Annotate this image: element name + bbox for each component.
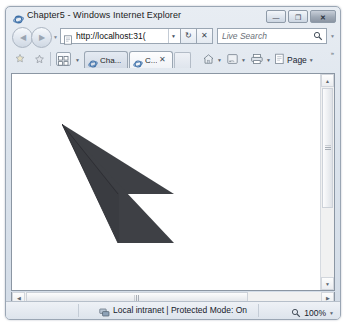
close-icon: ✕: [320, 13, 326, 20]
rss-icon: [226, 51, 239, 69]
page-canvas[interactable]: [12, 74, 320, 290]
feeds-button[interactable]: ▼: [226, 52, 246, 67]
stop-icon: ✕: [201, 32, 208, 40]
navigation-bar: ◀ ▶ ▼ http://localhost:31( ▼ ↻ ✕ Live Se…: [10, 26, 336, 48]
address-dropdown-icon[interactable]: ▼: [168, 29, 180, 43]
status-divider: [78, 304, 79, 317]
vertical-scrollbar-thumb[interactable]: [322, 88, 333, 208]
chevron-down-icon[interactable]: ▼: [329, 310, 334, 316]
browser-tab-1-active[interactable]: C... ✕: [129, 51, 173, 68]
scroll-down-button[interactable]: ▼: [321, 277, 334, 290]
toolbar-overflow-icon[interactable]: »: [331, 50, 334, 56]
stop-button[interactable]: ✕: [197, 28, 213, 44]
home-button[interactable]: ▼: [202, 52, 222, 67]
dark-chevron-polygon: [62, 124, 177, 246]
back-button[interactable]: ◀: [12, 27, 33, 48]
window-controls: — ❐ ✕: [266, 10, 336, 23]
address-input[interactable]: http://localhost:31(: [76, 31, 168, 41]
forward-button[interactable]: ▶: [31, 27, 52, 48]
close-tab-icon[interactable]: ✕: [159, 56, 166, 64]
minimize-button[interactable]: —: [266, 10, 286, 23]
window-title: Chapter5 - Windows Internet Explorer: [27, 10, 181, 20]
search-provider-dropdown-icon[interactable]: ▼: [330, 33, 335, 39]
zoom-icon: [291, 304, 301, 320]
page-menu-button[interactable]: Page ▼: [274, 52, 314, 67]
chevron-down-icon[interactable]: ▼: [217, 57, 222, 63]
browser-tab-0[interactable]: Cha...: [84, 51, 128, 68]
page-icon: [88, 55, 98, 65]
toolbar-divider: [50, 52, 51, 66]
refresh-button[interactable]: ↻: [181, 28, 197, 44]
status-divider: [258, 304, 259, 317]
tab-list-dropdown-icon[interactable]: ▼: [75, 57, 80, 63]
scroll-up-button[interactable]: ▲: [321, 74, 334, 87]
minimize-icon: —: [273, 13, 280, 20]
content-frame: ▲ ▼: [11, 73, 335, 291]
printer-icon: [250, 51, 264, 69]
tab-label: Cha...: [100, 56, 121, 65]
print-button[interactable]: ▼: [250, 52, 271, 67]
close-button[interactable]: ✕: [310, 10, 336, 23]
chevron-down-icon: ▼: [325, 281, 330, 286]
internet-explorer-window: Chapter5 - Windows Internet Explorer — ❐…: [5, 6, 341, 320]
intranet-icon: [99, 304, 110, 315]
tab-and-command-toolbar: ▼ Cha... C... ✕: [10, 49, 336, 70]
ie-logo-icon: [13, 11, 24, 22]
search-input[interactable]: Live Search: [222, 31, 313, 41]
back-arrow-icon: ◀: [20, 34, 26, 42]
refresh-icon: ↻: [185, 32, 192, 40]
chevron-down-icon[interactable]: ▼: [309, 57, 314, 63]
page-icon: [63, 31, 73, 41]
tab-label: C...: [145, 56, 157, 65]
zoom-control[interactable]: 100% ▼: [291, 304, 334, 320]
security-zone-indicator[interactable]: Local intranet | Protected Mode: On: [99, 304, 247, 315]
maximize-icon: ❐: [295, 13, 301, 20]
favorites-icon[interactable]: [32, 52, 47, 67]
status-text: Local intranet | Protected Mode: On: [113, 305, 247, 315]
zoom-level-label: 100%: [304, 308, 326, 318]
chevron-down-icon[interactable]: ▼: [266, 57, 271, 63]
scrollbar-grip-icon: [325, 146, 331, 151]
search-icon[interactable]: [313, 31, 326, 41]
star-plus-icon[interactable]: [14, 52, 29, 67]
status-bar: Local intranet | Protected Mode: On 100%…: [6, 301, 340, 319]
history-dropdown-icon[interactable]: ▼: [53, 34, 58, 40]
chevron-up-icon: ▲: [325, 78, 330, 83]
page-icon: [274, 51, 285, 69]
home-icon: [202, 51, 215, 69]
maximize-button[interactable]: ❐: [288, 10, 308, 23]
forward-arrow-icon: ▶: [39, 34, 45, 42]
chevron-down-icon[interactable]: ▼: [241, 57, 246, 63]
page-icon: [133, 55, 143, 65]
chevron-left-icon: ◀: [17, 296, 21, 301]
page-menu-label: Page: [287, 55, 307, 65]
search-box[interactable]: Live Search: [217, 28, 327, 44]
address-bar[interactable]: http://localhost:31( ▼: [60, 28, 181, 44]
chevron-right-icon: ▶: [326, 296, 330, 301]
vertical-scrollbar[interactable]: ▲ ▼: [320, 74, 334, 290]
title-bar: Chapter5 - Windows Internet Explorer — ❐…: [6, 7, 340, 26]
quick-tabs-button[interactable]: [56, 52, 71, 66]
new-tab-button[interactable]: [174, 52, 191, 68]
